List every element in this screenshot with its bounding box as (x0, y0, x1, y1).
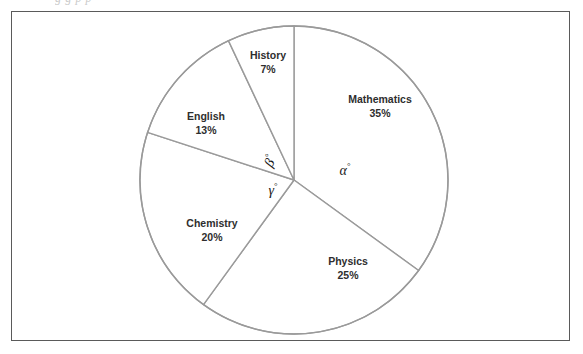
page-root: g g p p Mathematics 35% Physics 25% Chem… (0, 0, 583, 354)
slice-percent-chemistry: 20% (186, 230, 237, 244)
pie-slice-group (140, 26, 448, 334)
slice-name-physics: Physics (328, 255, 368, 267)
slice-name-history: History (250, 49, 286, 61)
pie-chart-svg (0, 0, 583, 354)
slice-label-physics: Physics 25% (328, 255, 368, 282)
pie-chart: Mathematics 35% Physics 25% Chemistry 20… (0, 0, 583, 354)
slice-name-english: English (187, 110, 225, 122)
degree-sign-gamma: ° (274, 181, 278, 191)
slice-label-history: History 7% (250, 49, 286, 76)
slice-percent-english: 13% (187, 123, 225, 137)
slice-percent-history: 7% (250, 62, 286, 76)
angle-annotation-alpha: α° (340, 161, 351, 179)
angle-annotation-gamma: γ° (268, 181, 277, 199)
slice-label-mathematics: Mathematics 35% (348, 93, 412, 120)
slice-name-mathematics: Mathematics (348, 93, 412, 105)
slice-percent-physics: 25% (328, 268, 368, 282)
slice-label-english: English 13% (187, 110, 225, 137)
slice-percent-mathematics: 35% (348, 106, 412, 120)
slice-name-chemistry: Chemistry (186, 217, 237, 229)
slice-label-chemistry: Chemistry 20% (186, 217, 237, 244)
degree-sign-alpha: ° (347, 161, 351, 171)
